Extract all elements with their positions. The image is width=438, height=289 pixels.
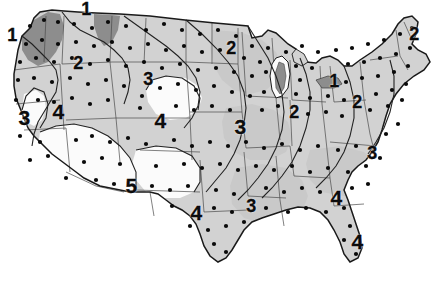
contour-label-northern-california: 3 <box>18 107 29 128</box>
contour-label-georgia: 4 <box>330 187 341 208</box>
contour-label-pennsylvania: 2 <box>352 93 362 111</box>
contour-label-missouri: 3 <box>234 116 245 137</box>
contour-label-florida: 4 <box>351 231 362 252</box>
contour-label-maine: 2 <box>409 25 419 43</box>
contour-label-north-carolina: 3 <box>367 144 377 162</box>
contour-label-northern-montana: 1 <box>81 0 91 18</box>
contour-label-mississippi: 3 <box>246 197 256 215</box>
contour-label-new-mexico: 5 <box>125 175 136 196</box>
contour-label-indiana: 2 <box>289 103 299 121</box>
figure-caption <box>0 280 438 289</box>
contour-label-minnesota: 2 <box>226 39 236 57</box>
contour-label-colorado: 4 <box>154 110 165 131</box>
contour-label-western-washington: 1 <box>7 26 17 44</box>
contour-label-texas: 4 <box>190 202 201 223</box>
contour-label-lake-erie: 1 <box>329 72 339 90</box>
contour-label-nevada: 4 <box>52 101 63 122</box>
contour-label-wyoming: 3 <box>143 70 153 88</box>
us-contour-map-figure: 1123221223443354344 <box>0 0 438 289</box>
contour-label-idaho: 2 <box>73 54 83 72</box>
